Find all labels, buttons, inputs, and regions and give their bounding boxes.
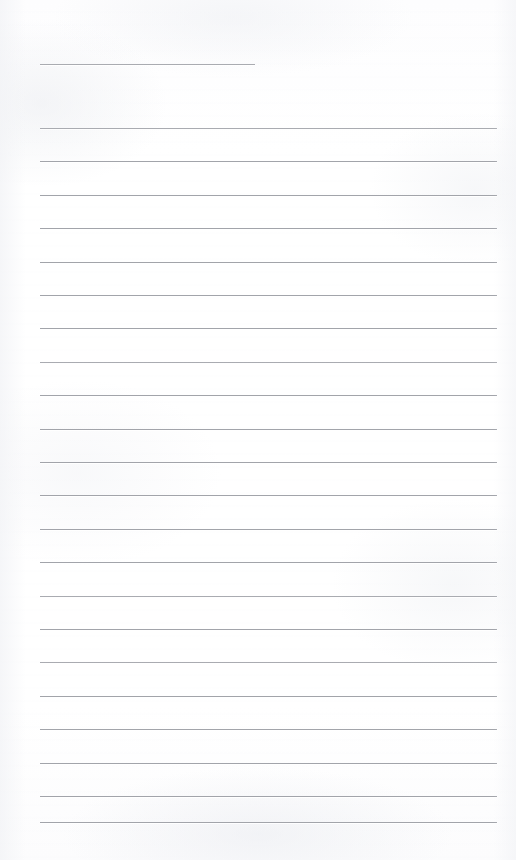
ruled-line — [40, 562, 497, 563]
ruled-line — [40, 729, 497, 730]
ruled-line — [40, 395, 497, 396]
ruled-line — [40, 529, 497, 530]
ruled-line — [40, 262, 497, 263]
ruled-line — [40, 362, 497, 363]
ruled-line — [40, 796, 497, 797]
ruled-line — [40, 462, 497, 463]
ruled-line — [40, 495, 497, 496]
ruled-line — [40, 696, 497, 697]
ruled-line — [40, 763, 497, 764]
ruled-line — [40, 822, 497, 823]
page-edge-shading — [0, 0, 516, 860]
ruled-line — [40, 128, 497, 129]
ruled-line — [40, 596, 497, 597]
ruled-line — [40, 161, 497, 162]
ruled-line — [40, 195, 497, 196]
ruled-line — [40, 662, 497, 663]
notebook-page — [0, 0, 516, 860]
scan-banding-overlay — [0, 0, 516, 860]
ruled-line — [40, 228, 497, 229]
ruled-line — [40, 629, 497, 630]
ruled-line — [40, 295, 497, 296]
ruled-line — [40, 429, 497, 430]
ruled-line — [40, 328, 497, 329]
title-rule — [40, 64, 255, 65]
